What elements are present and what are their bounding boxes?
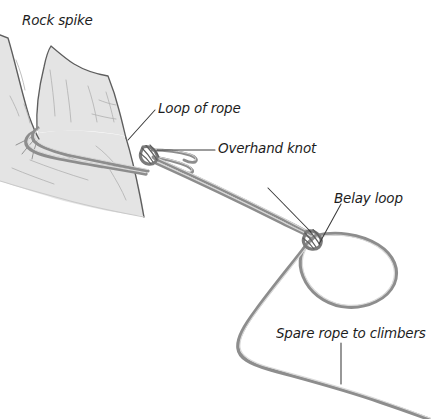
loop-of-rope-leader (128, 110, 155, 140)
label-rock-spike: Rock spike (22, 12, 93, 28)
rock-mass (0, 35, 144, 217)
label-loop-of-rope: Loop of rope (158, 100, 241, 116)
label-overhand-knot: Overhand knot (218, 140, 316, 156)
belay-loop-leader (319, 204, 341, 244)
illustration-figure: Rock spike Loop of rope Overhand knot Be… (0, 0, 431, 419)
rock-body-fill (0, 131, 144, 216)
illustration-canvas (0, 0, 431, 419)
main-rope-strand-b (156, 163, 312, 238)
label-spare-rope-to-climbers: Spare rope to climbers (276, 325, 426, 341)
main-rope-strand-a (154, 158, 311, 234)
overhand-knot (140, 145, 159, 164)
rock-spike-fill (38, 47, 125, 136)
label-belay-loop: Belay loop (334, 190, 403, 206)
